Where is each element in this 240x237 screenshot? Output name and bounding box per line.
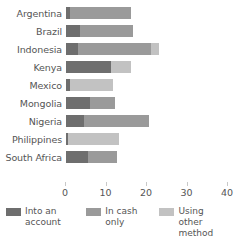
category-label: Mongolia	[0, 98, 66, 109]
legend-item[interactable]: Into an account	[6, 206, 77, 228]
stacked-bar	[66, 79, 113, 91]
x-axis-tick-label: 0	[62, 187, 68, 198]
stacked-bar	[66, 25, 133, 37]
bar-track	[66, 76, 232, 94]
x-axis-tick	[187, 182, 188, 186]
x-axis-tick	[227, 182, 228, 186]
category-label: Philippines	[0, 134, 66, 145]
chart-row: Indonesia	[0, 40, 240, 58]
bar-segment	[70, 79, 113, 91]
bar-segment	[66, 25, 80, 37]
stacked-bar	[66, 151, 117, 163]
legend-label: Using other method	[178, 206, 229, 237]
stacked-bar-chart: ArgentinaBrazilIndonesiaKenyaMexicoMongo…	[0, 0, 240, 237]
bar-track	[66, 130, 232, 148]
x-axis-tick	[65, 182, 66, 186]
bar-segment	[68, 133, 119, 145]
bar-segment	[66, 97, 90, 109]
chart-row: South Africa	[0, 148, 240, 166]
bar-segment	[66, 115, 84, 127]
category-label: Mexico	[0, 80, 66, 91]
category-label: Nigeria	[0, 116, 66, 127]
bar-track	[66, 4, 232, 22]
legend-swatch-icon	[86, 208, 101, 216]
chart-row: Philippines	[0, 130, 240, 148]
bar-segment	[111, 61, 131, 73]
bar-segment	[84, 115, 149, 127]
chart-row: Kenya	[0, 58, 240, 76]
legend-item[interactable]: In cash only	[86, 206, 150, 228]
bar-segment	[80, 25, 133, 37]
x-axis-tick-label: 40	[221, 187, 233, 198]
legend-swatch-icon	[159, 208, 174, 216]
chart-row: Nigeria	[0, 112, 240, 130]
stacked-bar	[66, 43, 159, 55]
chart-legend: Into an accountIn cash onlyUsing other m…	[6, 206, 238, 237]
stacked-bar	[66, 133, 119, 145]
x-axis-tick	[106, 182, 107, 186]
stacked-bar	[66, 61, 131, 73]
bar-segment	[66, 151, 88, 163]
legend-swatch-icon	[6, 208, 21, 216]
stacked-bar	[66, 7, 131, 19]
bar-segment	[66, 43, 78, 55]
bar-track	[66, 94, 232, 112]
bar-segment	[70, 7, 131, 19]
x-axis-tick-label: 30	[180, 187, 192, 198]
category-label: South Africa	[0, 152, 66, 163]
category-label: Kenya	[0, 62, 66, 73]
bar-track	[66, 112, 232, 130]
bar-segment	[90, 97, 114, 109]
x-axis-tick	[146, 182, 147, 186]
x-axis: 010203040	[65, 182, 227, 187]
chart-plot-area: ArgentinaBrazilIndonesiaKenyaMexicoMongo…	[0, 4, 240, 166]
chart-row: Mexico	[0, 76, 240, 94]
bar-segment	[151, 43, 159, 55]
bar-segment	[88, 151, 116, 163]
bar-track	[66, 58, 232, 76]
category-label: Indonesia	[0, 44, 66, 55]
x-axis-tick-label: 20	[140, 187, 152, 198]
stacked-bar	[66, 97, 115, 109]
bar-segment	[78, 43, 151, 55]
chart-row: Brazil	[0, 22, 240, 40]
legend-label: Into an account	[25, 206, 77, 228]
chart-row: Mongolia	[0, 94, 240, 112]
x-axis-tick-label: 10	[99, 187, 111, 198]
category-label: Argentina	[0, 8, 66, 19]
bar-track	[66, 148, 232, 166]
legend-item[interactable]: Using other method	[159, 206, 229, 237]
stacked-bar	[66, 115, 149, 127]
bar-track	[66, 22, 232, 40]
chart-row: Argentina	[0, 4, 240, 22]
category-label: Brazil	[0, 26, 66, 37]
bar-segment	[66, 61, 111, 73]
legend-label: In cash only	[105, 206, 150, 228]
bar-track	[66, 40, 232, 58]
